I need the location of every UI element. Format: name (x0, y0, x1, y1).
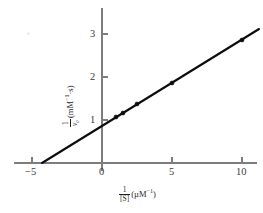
x-tick-label-5: 5 (169, 167, 174, 178)
x-tick-label-0: 0 (99, 167, 104, 178)
plot-canvas (0, 0, 263, 213)
y-axis-fraction-numerator: 1 (62, 119, 70, 127)
x-axis-fraction-numerator: 1 (119, 186, 130, 194)
x-axis-unit: (µM−1) (131, 190, 156, 199)
lineweaver-burk-plot-figure: −5 0 5 10 1 2 3 1 [S] (µM−1) 1 v₀ (mM−1·… (0, 0, 263, 213)
y-axis-fraction: 1 v₀ (62, 119, 78, 127)
y-tick-label-3: 3 (90, 29, 95, 40)
x-tick-label-10: 10 (236, 167, 247, 178)
y-tick-label-1: 1 (90, 115, 95, 126)
x-axis-unit-close: ) (153, 189, 156, 199)
data-point (121, 111, 125, 115)
y-axis-unit-close: ·s) (65, 85, 75, 94)
x-axis-unit-open: (µM (131, 189, 146, 199)
y-axis-fraction-denominator: v₀ (70, 119, 79, 127)
data-point (170, 81, 174, 85)
y-axis-unit: (mM−1·s) (66, 85, 75, 118)
y-axis-unit-exponent: −1 (63, 94, 70, 101)
data-point (135, 102, 139, 106)
x-tick-label-minus5: −5 (25, 167, 36, 178)
x-axis-fraction: 1 [S] (119, 186, 130, 202)
x-axis-title: 1 [S] (µM−1) (118, 186, 156, 202)
y-tick-label-2: 2 (90, 72, 95, 83)
y-axis-unit-open: (mM (65, 101, 75, 118)
data-point (114, 115, 118, 119)
x-axis-fraction-denominator: [S] (119, 194, 130, 203)
y-axis-title: 1 v₀ (mM−1·s) (62, 85, 78, 128)
data-point (240, 38, 244, 42)
